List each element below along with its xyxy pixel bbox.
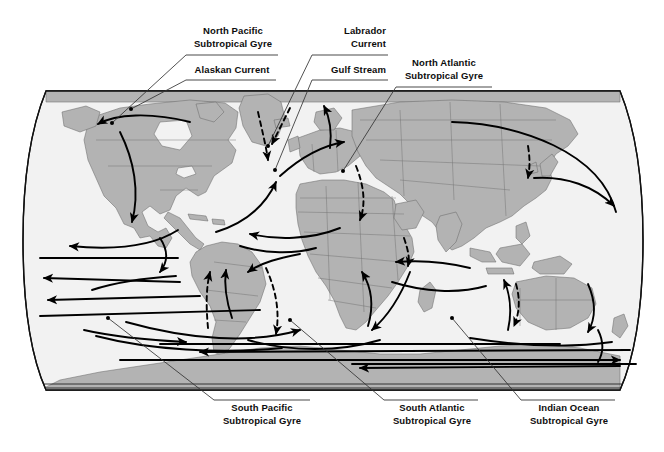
label-line-1: South Atlantic — [388, 402, 476, 415]
label-line-2: Subtropical Gyre — [190, 38, 276, 51]
leader-line-alaskan-current — [131, 80, 186, 109]
leader-dot-north-pacific-subtropical-gyre — [110, 121, 114, 125]
label-line-2: Subtropical Gyre — [400, 70, 488, 83]
label-line-2: Subtropical Gyre — [525, 415, 613, 428]
leader-line-labrador-current — [268, 55, 312, 146]
label-line-1: Labrador — [318, 25, 386, 38]
leader-line-south-atlantic-subtropical-gyre — [290, 320, 384, 400]
leader-dot-indian-ocean-subtropical-gyre — [450, 316, 454, 320]
label-gulf-stream: Gulf Stream — [318, 64, 386, 77]
leader-line-south-pacific-subtropical-gyre — [108, 318, 214, 400]
leader-dot-south-pacific-subtropical-gyre — [106, 316, 110, 320]
leader-line-indian-ocean-subtropical-gyre — [452, 318, 521, 400]
label-north-atlantic-subtropical-gyre: North AtlanticSubtropical Gyre — [400, 57, 488, 82]
label-line-2: Subtropical Gyre — [388, 415, 476, 428]
leader-dot-north-atlantic-subtropical-gyre — [341, 169, 345, 173]
label-alaskan-current: Alaskan Current — [190, 64, 274, 77]
label-line-1: North Pacific — [190, 25, 276, 38]
label-labrador-current: LabradorCurrent — [318, 25, 386, 50]
leader-dot-gulf-stream — [273, 168, 277, 172]
ocean-currents-figure: North PacificSubtropical GyreAlaskan Cur… — [0, 0, 664, 452]
label-south-pacific-subtropical-gyre: South PacificSubtropical Gyre — [218, 402, 306, 427]
label-line-1: North Atlantic — [400, 57, 488, 70]
leader-dot-labrador-current — [266, 144, 270, 148]
label-line-2: Current — [318, 38, 386, 51]
leader-line-north-pacific-subtropical-gyre — [112, 55, 186, 123]
label-line-1: Gulf Stream — [318, 64, 386, 77]
leader-line-north-atlantic-subtropical-gyre — [343, 87, 396, 171]
leader-dot-south-atlantic-subtropical-gyre — [288, 318, 292, 322]
label-line-1: Indian Ocean — [525, 402, 613, 415]
label-line-1: Alaskan Current — [190, 64, 274, 77]
label-south-atlantic-subtropical-gyre: South AtlanticSubtropical Gyre — [388, 402, 476, 427]
label-line-1: South Pacific — [218, 402, 306, 415]
label-indian-ocean-subtropical-gyre: Indian OceanSubtropical Gyre — [525, 402, 613, 427]
label-north-pacific-subtropical-gyre: North PacificSubtropical Gyre — [190, 25, 276, 50]
leader-dot-alaskan-current — [129, 107, 133, 111]
label-line-2: Subtropical Gyre — [218, 415, 306, 428]
